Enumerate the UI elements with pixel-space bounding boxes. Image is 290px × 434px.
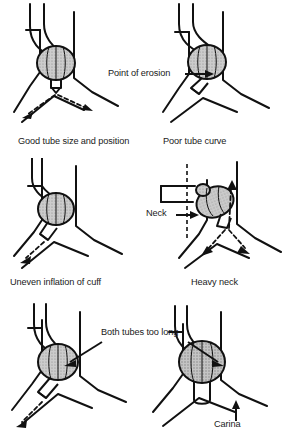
uneven-cuff-illustration xyxy=(0,158,145,276)
airflow-arrow xyxy=(22,402,42,422)
airflow-arrow xyxy=(26,242,44,258)
annotation-carina: Carina xyxy=(214,419,240,430)
annotation-both-tubes-too-long: Both tubes too long xyxy=(101,327,178,338)
caption-good-tube: Good tube size and position xyxy=(18,136,129,147)
airflow-arrowhead xyxy=(16,420,27,428)
tracheostomy-tube xyxy=(161,186,195,202)
both-tubes-left-arrow-icon xyxy=(58,340,104,368)
annotation-point-of-erosion: Point of erosion xyxy=(108,68,170,79)
airflow-arrowhead xyxy=(20,256,31,264)
neck-arrow-icon xyxy=(176,208,200,222)
annotation-neck: Neck xyxy=(146,208,167,219)
panel-uneven-cuff: Uneven inflation of cuff xyxy=(0,158,145,276)
tube-tip xyxy=(51,79,61,93)
tube-cuff xyxy=(37,46,75,80)
caption-uneven-cuff: Uneven inflation of cuff xyxy=(10,277,101,288)
tube-cuff-uneven xyxy=(38,193,74,225)
caption-poor-curve: Poor tube curve xyxy=(163,136,226,147)
tracheostomy-figure: Good tube size and position xyxy=(0,0,290,434)
tube-tip-long xyxy=(38,378,58,398)
point-of-erosion-arrow-icon xyxy=(185,66,215,82)
both-tubes-right-arrow-icon xyxy=(186,340,228,368)
caption-heavy-neck: Heavy neck xyxy=(191,277,238,288)
